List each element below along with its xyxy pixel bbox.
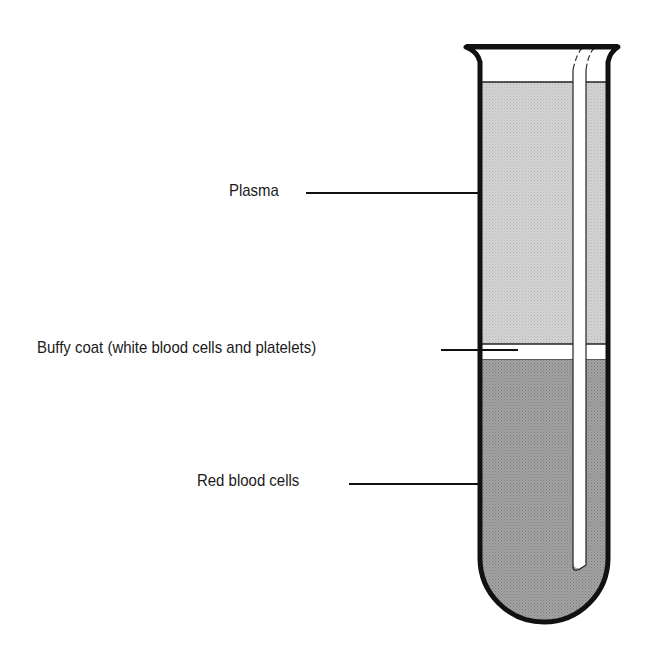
buffy-coat-layer [482, 344, 606, 360]
red-blood-cells-label: Red blood cells [197, 471, 299, 491]
buffy-coat-label: Buffy coat (white blood cells and platel… [37, 338, 316, 358]
red-blood-cells-layer [482, 360, 606, 630]
plasma-label: Plasma [229, 181, 279, 201]
plasma-layer [482, 82, 606, 344]
test-tube-diagram [0, 0, 647, 656]
